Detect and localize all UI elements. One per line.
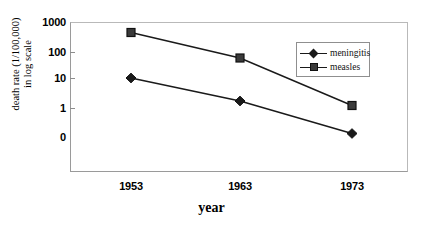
data-point-marker-meningitis: [235, 96, 245, 106]
diamond-marker-icon: [300, 47, 327, 59]
series-line-meningitis: [131, 78, 352, 134]
data-point-marker-measles: [236, 54, 244, 62]
series-layer: [0, 0, 423, 228]
data-point-marker-meningitis: [347, 129, 357, 139]
legend-item-measles: measles: [300, 60, 366, 74]
square-marker-icon: [300, 61, 327, 73]
legend-item-meningitis: meningitis: [300, 46, 366, 60]
data-point-marker-meningitis: [126, 73, 136, 83]
legend-label-meningitis: meningitis: [327, 48, 370, 58]
data-point-marker-measles: [127, 29, 135, 37]
legend-label-measles: measles: [327, 62, 360, 72]
chart-legend: meningitis measles: [296, 42, 370, 77]
data-point-marker-measles: [348, 102, 356, 110]
line-chart: 1000 100 10 1 0 death rate (1/100,000) i…: [0, 0, 423, 228]
